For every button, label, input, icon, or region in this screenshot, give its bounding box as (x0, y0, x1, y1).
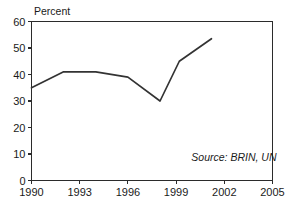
y-axis-title: Percent (34, 5, 70, 17)
x-tick-label: 2005 (260, 186, 284, 198)
annotations-group: Source: BRIN, UN (191, 151, 277, 163)
y-tick-label: 50 (13, 42, 25, 54)
y-tick-label: 20 (13, 122, 25, 134)
chart-container: Percent 0102030405060 199019931996199920… (0, 0, 288, 201)
line-chart: Percent 0102030405060 199019931996199920… (0, 0, 288, 201)
chart-background (0, 0, 288, 201)
x-tick-label: 1996 (116, 186, 140, 198)
y-tick-label: 10 (13, 148, 25, 160)
x-tick-label: 1999 (164, 186, 188, 198)
y-tick-label: 40 (13, 69, 25, 81)
source-note: Source: BRIN, UN (191, 151, 277, 163)
x-tick-label: 2002 (212, 186, 236, 198)
y-tick-label: 30 (13, 95, 25, 107)
y-tick-label: 60 (13, 16, 25, 28)
x-tick-label: 1993 (67, 186, 91, 198)
x-tick-label: 1990 (19, 186, 43, 198)
